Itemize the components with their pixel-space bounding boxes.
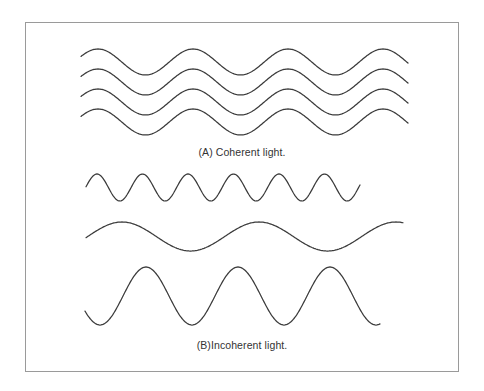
incoherent-wave-high-amplitude bbox=[85, 267, 380, 325]
caption-coherent-light: (A) Coherent light. bbox=[25, 146, 459, 158]
incoherent-waves-group bbox=[85, 174, 403, 325]
waves-canvas bbox=[0, 0, 484, 391]
incoherent-wave-short-wavelength bbox=[86, 174, 360, 201]
coherent-waves-group bbox=[81, 49, 408, 135]
coherent-wave bbox=[81, 49, 408, 75]
coherence-diagram: (A) Coherent light. (B)Incoherent light. bbox=[0, 0, 484, 391]
coherent-wave bbox=[81, 89, 408, 115]
coherent-wave bbox=[81, 109, 408, 135]
caption-incoherent-light: (B)Incoherent light. bbox=[25, 339, 459, 351]
incoherent-wave-long-wavelength bbox=[86, 222, 403, 251]
coherent-wave bbox=[81, 69, 408, 95]
